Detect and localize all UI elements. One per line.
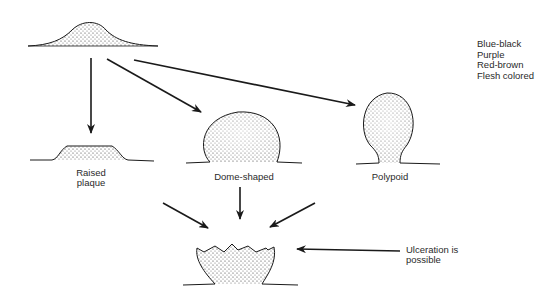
raised-plaque-shape (30, 146, 154, 161)
arrow-polypoid-to-ulcer (270, 203, 315, 227)
arrow-ulceration-note (297, 249, 400, 251)
polypoid-label: Polypoid (362, 172, 418, 182)
label-line: possible (406, 255, 486, 265)
ulcerated-shape (183, 244, 298, 285)
arrow-plaque-to-ulcer (163, 203, 208, 228)
ulceration-label: Ulceration is possible (406, 245, 486, 265)
polypoid-shape (356, 93, 440, 164)
dome-shaped-label: Dome-shaped (206, 172, 282, 182)
legend-item: Blue-black (477, 39, 534, 50)
label-line: plaque (66, 178, 116, 188)
raised-plaque-label: Raised plaque (66, 168, 116, 188)
color-legend: Blue-black Purple Red-brown Flesh colore… (477, 39, 534, 81)
legend-item: Red-brown (477, 60, 534, 71)
dome-shaped-shape (186, 112, 302, 163)
legend-item: Flesh colored (477, 71, 534, 82)
arrow-to-polypoid (134, 60, 355, 105)
arrow-to-dome (107, 59, 201, 112)
initial-lesion (28, 23, 158, 47)
